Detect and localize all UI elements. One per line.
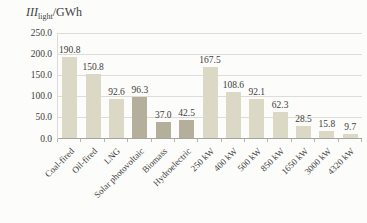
y-axis-tick-label: 0.0 xyxy=(40,134,52,145)
bar xyxy=(249,99,264,138)
bar xyxy=(156,122,171,138)
axis-tick xyxy=(197,139,198,142)
bar-value-label: 62.3 xyxy=(272,100,289,110)
bar-value-label: 28.5 xyxy=(295,114,312,124)
bar-value-label: 108.6 xyxy=(223,80,244,90)
axis-tick xyxy=(104,139,105,142)
bar xyxy=(62,57,77,138)
axis-tick xyxy=(127,139,128,142)
x-axis-labels: Coal-firedOil-firedLNGSolar photovoltaic… xyxy=(57,139,367,223)
axis-tick xyxy=(361,139,362,142)
title-symbol: III xyxy=(26,5,38,19)
bar-value-label: 15.8 xyxy=(319,119,336,129)
bar xyxy=(273,112,288,138)
y-axis-tick-label: 200.0 xyxy=(31,49,52,60)
bar-value-label: 150.8 xyxy=(82,62,103,72)
bar xyxy=(343,134,358,138)
y-axis-tick-label: 250.0 xyxy=(31,28,52,39)
gridline xyxy=(58,33,362,34)
bar-value-label: 9.7 xyxy=(344,122,356,132)
bar-value-label: 96.3 xyxy=(132,85,149,95)
axis-tick xyxy=(291,139,292,142)
bar xyxy=(296,126,311,138)
bar xyxy=(319,131,334,138)
bar-value-label: 37.0 xyxy=(155,110,172,120)
axis-tick xyxy=(57,139,58,142)
y-axis-tick-label: 100.0 xyxy=(31,91,52,102)
axis-tick xyxy=(151,139,152,142)
bar xyxy=(226,92,241,138)
axis-tick xyxy=(338,139,339,142)
bar-value-label: 190.8 xyxy=(59,45,80,55)
bar-value-label: 92.6 xyxy=(108,87,125,97)
axis-tick xyxy=(174,139,175,142)
bar-value-label: 167.5 xyxy=(199,55,220,65)
bar xyxy=(132,97,147,138)
axis-tick xyxy=(244,139,245,142)
bar-value-label: 92.1 xyxy=(248,87,265,97)
plot-area: 190.8150.892.696.337.042.5167.5108.692.1… xyxy=(57,33,362,139)
bar xyxy=(179,120,194,138)
title-subscript: light xyxy=(38,12,53,21)
y-axis-tick-label: 150.0 xyxy=(31,70,52,81)
bar-value-label: 42.5 xyxy=(178,108,195,118)
title-unit: /GWh xyxy=(53,5,82,19)
axis-tick xyxy=(314,139,315,142)
bar-chart: IIIlight/GWh 0.050.0100.0150.0200.0250.0… xyxy=(0,0,367,223)
y-axis-labels: 0.050.0100.0150.0200.0250.0 xyxy=(0,33,52,139)
bar xyxy=(109,99,124,138)
y-axis-tick-label: 50.0 xyxy=(35,112,52,123)
bar xyxy=(86,74,101,138)
axis-tick xyxy=(267,139,268,142)
axis-tick xyxy=(221,139,222,142)
bar xyxy=(203,67,218,138)
chart-title: IIIlight/GWh xyxy=(26,5,82,24)
axis-tick xyxy=(80,139,81,142)
